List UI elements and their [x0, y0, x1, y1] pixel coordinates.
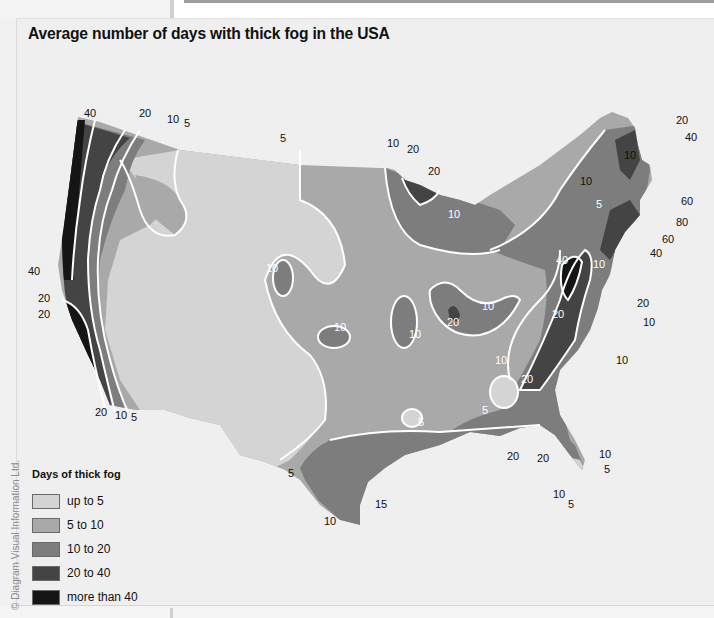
legend-item: 20 to 40: [32, 561, 138, 585]
legend-item: 10 to 20: [32, 537, 138, 561]
legend-label: 5 to 10: [67, 518, 104, 532]
legend-swatch-more-than-40: [32, 590, 60, 605]
svg-text:20: 20: [521, 373, 533, 385]
legend: Days of thick fog up to 5 5 to 10 10 to …: [32, 468, 138, 609]
svg-text:10: 10: [593, 258, 605, 270]
legend-swatch-20-to-40: [32, 566, 60, 581]
svg-text:10: 10: [324, 515, 336, 527]
legend-item: up to 5: [32, 489, 138, 513]
svg-text:10: 10: [334, 321, 346, 333]
svg-text:20: 20: [637, 297, 649, 309]
svg-text:5: 5: [131, 411, 137, 423]
svg-text:10: 10: [553, 488, 565, 500]
svg-text:20: 20: [552, 308, 564, 320]
legend-title: Days of thick fog: [32, 468, 138, 480]
legend-label: more than 40: [67, 590, 138, 604]
svg-text:10: 10: [643, 316, 655, 328]
legend-label: up to 5: [67, 494, 104, 508]
svg-text:20: 20: [38, 292, 50, 304]
svg-text:10: 10: [495, 354, 507, 366]
svg-text:10: 10: [409, 328, 421, 340]
svg-text:10: 10: [580, 175, 592, 187]
svg-text:20: 20: [95, 406, 107, 418]
svg-text:15: 15: [375, 498, 387, 510]
svg-text:20: 20: [507, 450, 519, 462]
svg-text:10: 10: [599, 448, 611, 460]
svg-text:20: 20: [428, 165, 440, 177]
svg-text:5: 5: [280, 132, 286, 144]
svg-text:10: 10: [266, 262, 278, 274]
svg-text:20: 20: [447, 316, 459, 328]
svg-text:10: 10: [624, 149, 636, 161]
svg-text:10: 10: [167, 113, 179, 125]
svg-text:40: 40: [84, 107, 96, 119]
svg-text:20: 20: [139, 107, 151, 119]
legend-item: more than 40: [32, 585, 138, 609]
svg-text:10: 10: [448, 208, 460, 220]
legend-swatch-up-to-5: [32, 494, 60, 509]
svg-text:5: 5: [418, 416, 424, 428]
svg-text:40: 40: [28, 265, 40, 277]
svg-text:5: 5: [482, 404, 488, 416]
svg-text:20: 20: [537, 452, 549, 464]
svg-text:5: 5: [568, 498, 574, 510]
svg-text:80: 80: [676, 216, 688, 228]
svg-text:5: 5: [596, 198, 602, 210]
svg-text:20: 20: [38, 308, 50, 320]
legend-item: 5 to 10: [32, 513, 138, 537]
svg-text:40: 40: [556, 254, 568, 266]
legend-label: 10 to 20: [67, 542, 110, 556]
svg-text:40: 40: [650, 247, 662, 259]
legend-swatch-5-to-10: [32, 518, 60, 533]
svg-text:5: 5: [604, 463, 610, 475]
svg-text:60: 60: [681, 195, 693, 207]
svg-text:20: 20: [407, 143, 419, 155]
svg-text:60: 60: [662, 233, 674, 245]
legend-label: 20 to 40: [67, 566, 110, 580]
legend-swatch-10-to-20: [32, 542, 60, 557]
svg-text:5: 5: [184, 117, 190, 129]
svg-text:5: 5: [288, 467, 294, 479]
svg-text:40: 40: [685, 131, 697, 143]
svg-text:10: 10: [482, 300, 494, 312]
svg-text:10: 10: [387, 137, 399, 149]
svg-text:10: 10: [616, 354, 628, 366]
svg-text:10: 10: [115, 409, 127, 421]
svg-text:20: 20: [676, 114, 688, 126]
